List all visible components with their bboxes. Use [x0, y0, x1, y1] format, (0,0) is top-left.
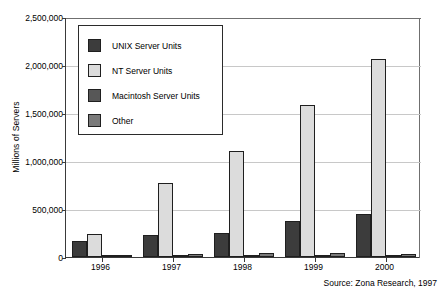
bar: [72, 241, 87, 257]
x-axis-tick-label: 1999: [278, 262, 349, 276]
bar: [229, 151, 244, 257]
bar: [371, 59, 386, 257]
legend-swatch: [88, 89, 101, 102]
x-axis-tick-label: 2000: [349, 262, 420, 276]
bar: [285, 221, 300, 257]
y-axis-tick-mark: [62, 258, 66, 259]
bar: [300, 105, 315, 257]
bar: [244, 255, 259, 257]
legend-label: NT Server Units: [112, 66, 172, 76]
legend-swatch: [88, 114, 101, 127]
bar: [158, 183, 173, 257]
y-axis-tick-label: 1,000,000: [25, 157, 63, 167]
x-axis-tick-labels: 19961997199819992000: [65, 262, 420, 276]
bar-group: [350, 17, 421, 257]
bar: [356, 214, 371, 257]
chart-figure: Millions of Servers 0500,0001,000,0001,5…: [0, 0, 443, 297]
y-axis-title: Millions of Servers: [11, 57, 25, 217]
bar: [87, 234, 102, 257]
bar-group: [279, 17, 350, 257]
legend-item: UNIX Server Units: [88, 33, 215, 58]
chart-legend: UNIX Server UnitsNT Server UnitsMacintos…: [78, 25, 223, 135]
y-axis-tick-label: 2,000,000: [25, 61, 63, 71]
bar: [401, 254, 416, 257]
legend-swatch: [88, 39, 101, 52]
bar: [188, 254, 203, 257]
bar: [259, 253, 274, 257]
legend-item: NT Server Units: [88, 58, 215, 83]
y-axis-tick-label: 2,500,000: [25, 13, 63, 23]
x-axis-tick-label: 1998: [207, 262, 278, 276]
bar: [143, 235, 158, 257]
legend-item: Other: [88, 108, 215, 133]
legend-label: Other: [112, 116, 133, 126]
x-axis-tick-label: 1997: [136, 262, 207, 276]
bar: [315, 255, 330, 257]
bar: [102, 255, 117, 257]
y-axis-tick-label: 500,000: [32, 205, 63, 215]
bar: [214, 233, 229, 257]
bar: [117, 255, 132, 257]
legend-swatch: [88, 64, 101, 77]
bar: [330, 253, 345, 257]
legend-item: Macintosh Server Units: [88, 83, 215, 108]
bar: [386, 255, 401, 257]
bar: [173, 255, 188, 257]
source-note: Source: Zona Research, 1997: [324, 278, 437, 288]
x-axis-tick-label: 1996: [65, 262, 136, 276]
y-axis-tick-label: 1,500,000: [25, 109, 63, 119]
legend-label: UNIX Server Units: [112, 41, 181, 51]
legend-label: Macintosh Server Units: [112, 91, 200, 101]
